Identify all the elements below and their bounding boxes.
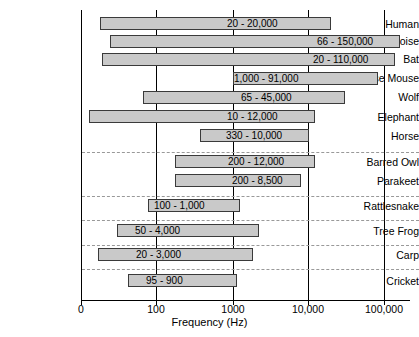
category-label-parakeet: Parakeet bbox=[341, 176, 419, 187]
bar-value-bat: 20 - 110,000 bbox=[313, 53, 368, 66]
xtick-label-1000: 1000 bbox=[221, 303, 244, 315]
bar-value-human: 20 - 20,000 bbox=[227, 17, 278, 30]
bar-value-porpoise: 66 - 150,000 bbox=[317, 35, 373, 48]
bar-value-elephant: 10 - 12,000 bbox=[227, 110, 278, 123]
category-label-human: Human bbox=[341, 19, 419, 30]
bar-value-wolf: 65 - 45,000 bbox=[241, 91, 292, 104]
group-separator-5 bbox=[82, 269, 419, 270]
x-axis-title: Frequency (Hz) bbox=[0, 316, 419, 328]
bar-value-house-mouse: 1,000 - 91,000 bbox=[234, 72, 299, 85]
category-label-rattlesnake: Rattlesnake bbox=[341, 201, 419, 212]
xtick-label-0: 0 bbox=[78, 303, 84, 315]
group-separator-3 bbox=[82, 220, 419, 221]
bar-value-barred-owl: 200 - 12,000 bbox=[228, 155, 284, 168]
category-label-cricket: Cricket bbox=[341, 276, 419, 287]
bar-value-tree-frog: 50 - 4,000 bbox=[135, 224, 180, 237]
xtick-label-10000: 10,000 bbox=[292, 303, 324, 315]
xtick-label-100000: 100,000 bbox=[365, 303, 403, 315]
bar-value-horse: 330 - 10,000 bbox=[226, 129, 282, 142]
group-separator-1 bbox=[82, 152, 419, 153]
category-label-wolf: Wolf bbox=[341, 92, 419, 103]
bar-value-cricket: 95 - 900 bbox=[146, 274, 183, 287]
category-label-elephant: Elephant bbox=[341, 112, 419, 123]
group-separator-4 bbox=[82, 245, 419, 246]
bar-value-parakeet: 200 - 8,500 bbox=[232, 174, 283, 187]
bar-elephant bbox=[89, 110, 315, 123]
category-label-horse: Horse bbox=[341, 131, 419, 142]
category-label-carp: Carp bbox=[341, 250, 419, 261]
xtick-label-100: 100 bbox=[147, 303, 165, 315]
hearing-range-chart: Human Porpoise Bat House Mouse Wolf Elep… bbox=[0, 0, 419, 337]
bar-value-carp: 20 - 3,000 bbox=[136, 248, 181, 261]
group-separator-2 bbox=[82, 196, 419, 197]
category-label-tree-frog: Tree Frog bbox=[341, 226, 419, 237]
category-label-barred-owl: Barred Owl bbox=[341, 157, 419, 168]
bar-value-rattlesnake: 100 - 1,000 bbox=[154, 199, 205, 212]
bar-human bbox=[100, 17, 331, 30]
